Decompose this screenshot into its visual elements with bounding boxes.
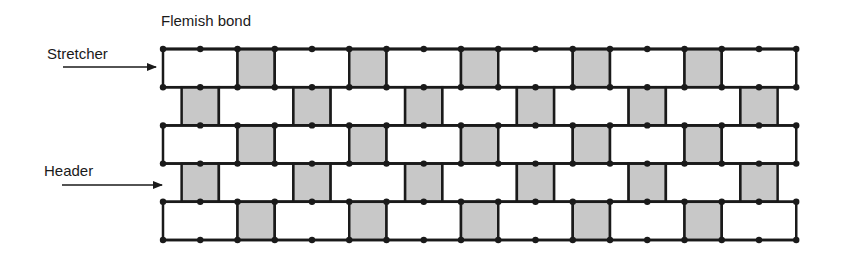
joint-dot (160, 122, 166, 128)
joint-dot (383, 199, 389, 205)
stretcher-brick (387, 125, 462, 163)
joint-dot (383, 122, 389, 128)
joint-dot (272, 237, 278, 243)
joint-dot (421, 46, 427, 52)
joint-dot (495, 122, 501, 128)
joint-dot (681, 237, 687, 243)
joint-dot (532, 46, 538, 52)
joint-dot (234, 46, 240, 52)
stretcher-brick (387, 49, 462, 87)
joint-dot (458, 199, 464, 205)
joint-dot (272, 46, 278, 52)
joint-dot (644, 84, 650, 90)
joint-dot (719, 46, 725, 52)
joint-dot (346, 160, 352, 166)
joint-dot (309, 237, 315, 243)
stretcher-brick (610, 202, 685, 240)
stretcher-brick (442, 164, 517, 202)
joint-dot (197, 84, 203, 90)
header-brick (405, 164, 442, 202)
joint-dot (607, 84, 613, 90)
stretcher-brick (722, 202, 797, 240)
joint-dot (756, 199, 762, 205)
joint-dot (458, 160, 464, 166)
joint-dot (532, 84, 538, 90)
joint-dot (756, 160, 762, 166)
stretcher-brick (219, 87, 294, 125)
joint-dot (756, 46, 762, 52)
joint-dot (234, 122, 240, 128)
joint-dot (570, 122, 576, 128)
joint-dot (719, 122, 725, 128)
joint-dot (272, 84, 278, 90)
joint-dot (607, 237, 613, 243)
stretcher-brick (554, 87, 629, 125)
joint-dot (234, 237, 240, 243)
stretcher-brick (442, 87, 517, 125)
joint-dot (495, 199, 501, 205)
joint-dot (719, 237, 725, 243)
joint-dot (383, 160, 389, 166)
header-brick (238, 49, 275, 87)
joint-dot (197, 46, 203, 52)
joint-dot (495, 84, 501, 90)
joint-dot (309, 199, 315, 205)
joint-dot (644, 199, 650, 205)
joint-dot (681, 46, 687, 52)
header-brick (573, 125, 610, 163)
joint-dot (570, 46, 576, 52)
joint-dot (458, 84, 464, 90)
header-brick (629, 87, 666, 125)
joint-dot (644, 237, 650, 243)
joint-dot (681, 122, 687, 128)
joint-dot (234, 84, 240, 90)
stretcher-brick (554, 164, 629, 202)
joint-dot (160, 84, 166, 90)
joint-dot (421, 160, 427, 166)
joint-dot (495, 237, 501, 243)
stretcher-brick (722, 125, 797, 163)
joint-dot (756, 237, 762, 243)
stretcher-brick (331, 164, 406, 202)
joint-dot (793, 199, 799, 205)
stretcher-brick (163, 202, 238, 240)
joint-dot (346, 84, 352, 90)
joint-dot (272, 160, 278, 166)
joint-dot (383, 84, 389, 90)
header-brick (238, 202, 275, 240)
joint-dot (197, 199, 203, 205)
stretcher-brick (498, 202, 573, 240)
joint-dot (793, 46, 799, 52)
stretcher-brick (275, 125, 350, 163)
joint-dot (495, 160, 501, 166)
joint-dot (644, 122, 650, 128)
stretcher-brick (666, 87, 741, 125)
joint-dot (421, 84, 427, 90)
joint-dot (644, 160, 650, 166)
joint-dot (607, 46, 613, 52)
joint-dot (756, 122, 762, 128)
joint-dot (570, 199, 576, 205)
header-brick (182, 164, 219, 202)
joint-dot (309, 46, 315, 52)
joint-dot (681, 160, 687, 166)
header-brick (349, 202, 386, 240)
joint-dot (570, 84, 576, 90)
header-brick (461, 202, 498, 240)
stretcher-brick (610, 49, 685, 87)
stretcher-brick (219, 164, 294, 202)
header-brick (182, 87, 219, 125)
joint-dot (607, 122, 613, 128)
header-brick (405, 87, 442, 125)
joint-dot (719, 199, 725, 205)
joint-dot (309, 84, 315, 90)
header-brick (685, 202, 722, 240)
flemish-bond-diagram (0, 0, 843, 258)
header-brick (685, 125, 722, 163)
joint-dot (495, 46, 501, 52)
brick-wall (163, 49, 796, 240)
joint-dot (793, 122, 799, 128)
joint-dot (607, 160, 613, 166)
joint-dot (197, 160, 203, 166)
stretcher-brick (275, 202, 350, 240)
